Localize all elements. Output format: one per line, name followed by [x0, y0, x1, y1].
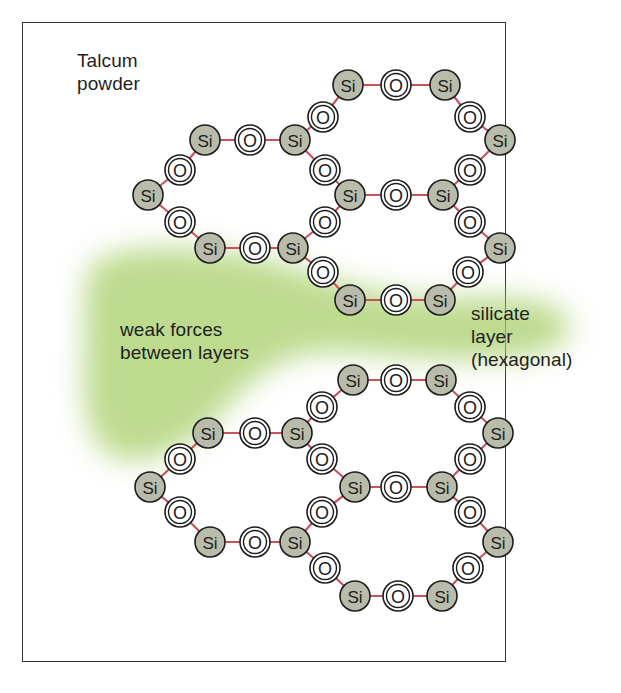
title-line-1: Talcum: [77, 49, 140, 72]
silicon-atom: Si: [427, 472, 457, 502]
silicon-symbol: Si: [490, 425, 505, 444]
silicon-symbol: Si: [433, 372, 448, 391]
silicon-symbol: Si: [287, 132, 302, 151]
oxygen-atom: O: [165, 207, 195, 237]
oxygen-atom: O: [455, 155, 485, 185]
silicon-atom: Si: [430, 70, 460, 100]
oxygen-atom: O: [165, 155, 195, 185]
silicon-symbol: Si: [432, 292, 447, 311]
silicon-symbol: Si: [142, 479, 157, 498]
silicon-atom: Si: [133, 180, 163, 210]
silicon-atom: Si: [190, 125, 220, 155]
silicon-symbol: Si: [200, 425, 215, 444]
silicon-atom: Si: [483, 418, 513, 448]
silicate-line-1: silicate: [471, 302, 572, 325]
silicon-atom: Si: [280, 527, 310, 557]
oxygen-symbol: O: [463, 503, 477, 523]
oxygen-atom: O: [165, 444, 195, 474]
silicon-atom: Si: [195, 527, 225, 557]
oxygen-symbol: O: [461, 263, 475, 283]
oxygen-atom: O: [453, 553, 483, 583]
oxygen-symbol: O: [173, 450, 187, 470]
silicon-atom: Si: [485, 233, 515, 263]
silicon-symbol: Si: [285, 240, 300, 259]
silicon-atom: Si: [335, 180, 365, 210]
oxygen-atom: O: [455, 392, 485, 422]
oxygen-symbol: O: [318, 213, 332, 233]
silicon-symbol: Si: [197, 132, 212, 151]
oxygen-symbol: O: [463, 161, 477, 181]
weak-forces-line-1: weak forces: [120, 318, 249, 341]
oxygen-atom: O: [453, 257, 483, 287]
oxygen-atom: O: [381, 285, 411, 315]
oxygen-atom: O: [310, 155, 340, 185]
oxygen-atom: O: [307, 497, 337, 527]
oxygen-symbol: O: [248, 424, 262, 444]
weak-forces-label: weak forces between layers: [120, 318, 249, 364]
oxygen-atom: O: [381, 365, 411, 395]
oxygen-symbol: O: [315, 503, 329, 523]
oxygen-symbol: O: [316, 108, 330, 128]
silicon-atom: Si: [483, 527, 513, 557]
silicon-symbol: Si: [345, 372, 360, 391]
oxygen-symbol: O: [316, 263, 330, 283]
oxygen-symbol: O: [318, 161, 332, 181]
silicon-atom: Si: [485, 125, 515, 155]
oxygen-atom: O: [381, 472, 411, 502]
oxygen-atom: O: [310, 207, 340, 237]
silicate-line-3: (hexagonal): [471, 348, 572, 371]
oxygen-symbol: O: [463, 108, 477, 128]
silicon-atom: Si: [427, 581, 457, 611]
silicon-atom: Si: [135, 472, 165, 502]
silicon-symbol: Si: [202, 534, 217, 553]
silicon-symbol: Si: [287, 534, 302, 553]
oxygen-symbol: O: [243, 131, 257, 151]
silicon-symbol: Si: [289, 425, 304, 444]
oxygen-symbol: O: [248, 239, 262, 259]
oxygen-atom: O: [240, 418, 270, 448]
silicon-symbol: Si: [347, 479, 362, 498]
diagram-title: Talcum powder: [77, 49, 140, 95]
oxygen-symbol: O: [173, 161, 187, 181]
oxygen-symbol: O: [318, 559, 332, 579]
oxygen-atom: O: [308, 257, 338, 287]
silicon-atom: Si: [280, 125, 310, 155]
oxygen-atom: O: [307, 444, 337, 474]
silicon-atom: Si: [340, 472, 370, 502]
silicon-atom: Si: [195, 233, 225, 263]
oxygen-atom: O: [455, 444, 485, 474]
silicon-atom: Si: [278, 233, 308, 263]
oxygen-symbol: O: [461, 559, 475, 579]
oxygen-symbol: O: [315, 398, 329, 418]
silicon-symbol: Si: [435, 187, 450, 206]
oxygen-symbol: O: [389, 186, 403, 206]
oxygen-atom: O: [383, 581, 413, 611]
oxygen-atom: O: [240, 233, 270, 263]
oxygen-symbol: O: [389, 76, 403, 96]
oxygen-atom: O: [381, 180, 411, 210]
silicon-symbol: Si: [437, 77, 452, 96]
oxygen-atom: O: [381, 70, 411, 100]
silicate-line-2: layer: [471, 325, 572, 348]
oxygen-symbol: O: [315, 450, 329, 470]
oxygen-atom: O: [240, 527, 270, 557]
silicon-symbol: Si: [492, 132, 507, 151]
silicon-symbol: Si: [434, 588, 449, 607]
oxygen-atom: O: [455, 207, 485, 237]
oxygen-atom: O: [310, 553, 340, 583]
silicon-atom: Si: [338, 365, 368, 395]
oxygen-atom: O: [455, 497, 485, 527]
silicon-symbol: Si: [342, 292, 357, 311]
silicon-atom: Si: [282, 418, 312, 448]
silicon-symbol: Si: [434, 479, 449, 498]
oxygen-symbol: O: [389, 371, 403, 391]
oxygen-atom: O: [455, 102, 485, 132]
silicon-symbol: Si: [340, 77, 355, 96]
oxygen-atom: O: [165, 497, 195, 527]
oxygen-atom: O: [307, 392, 337, 422]
oxygen-atom: O: [235, 125, 265, 155]
silicon-symbol: Si: [492, 240, 507, 259]
title-line-2: powder: [77, 72, 140, 95]
silicon-atom: Si: [340, 581, 370, 611]
oxygen-symbol: O: [463, 450, 477, 470]
